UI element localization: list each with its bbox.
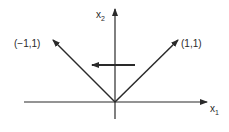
vector-diagram: x2 x1 (−1,1) (1,1) — [0, 0, 229, 132]
vector-1-1 — [115, 40, 178, 102]
vector-1-1-label: (1,1) — [181, 38, 202, 49]
vector-neg1-1-label: (−1,1) — [14, 38, 40, 49]
vector-neg1-1 — [53, 40, 115, 102]
x-axis-label: x1 — [210, 103, 219, 116]
y-axis-label: x2 — [96, 9, 105, 22]
